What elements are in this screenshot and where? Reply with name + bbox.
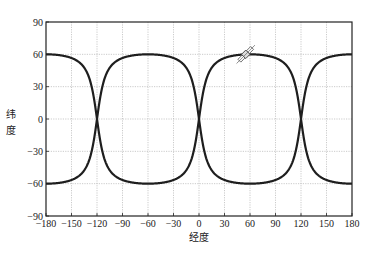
x-tick-label: −150 [61, 218, 82, 229]
y-tick-label: 30 [33, 81, 43, 92]
x-tick-label: 120 [294, 218, 309, 229]
x-axis-label: 经度 [189, 231, 209, 243]
x-tick-label: 150 [319, 218, 334, 229]
y-tick-label: 90 [33, 17, 43, 28]
y-axis-label-char-1: 纬 [6, 108, 16, 120]
x-tick-label: −120 [87, 218, 108, 229]
x-tick-label: 90 [271, 218, 281, 229]
y-axis-label-char-2: 度 [6, 124, 16, 136]
x-tick-label: 0 [197, 218, 202, 229]
x-tick-label: 30 [220, 218, 230, 229]
x-tick-label: 60 [245, 218, 255, 229]
ground-track-chart: −180−150−120−90−60−300306090120150180 −9… [0, 0, 377, 254]
y-tick-label: 60 [33, 49, 43, 60]
x-tick-label: −90 [115, 218, 131, 229]
y-tick-label: −30 [27, 146, 43, 157]
y-tick-label: 0 [38, 114, 43, 125]
y-tick-label: −90 [27, 211, 43, 222]
x-tick-labels: −180−150−120−90−60−300306090120150180 [36, 213, 360, 229]
y-tick-label: −60 [27, 178, 43, 189]
y-axis-label: 纬 度 [6, 108, 16, 136]
x-tick-label: 180 [345, 218, 360, 229]
x-tick-label: −30 [166, 218, 182, 229]
x-tick-label: −60 [140, 218, 156, 229]
